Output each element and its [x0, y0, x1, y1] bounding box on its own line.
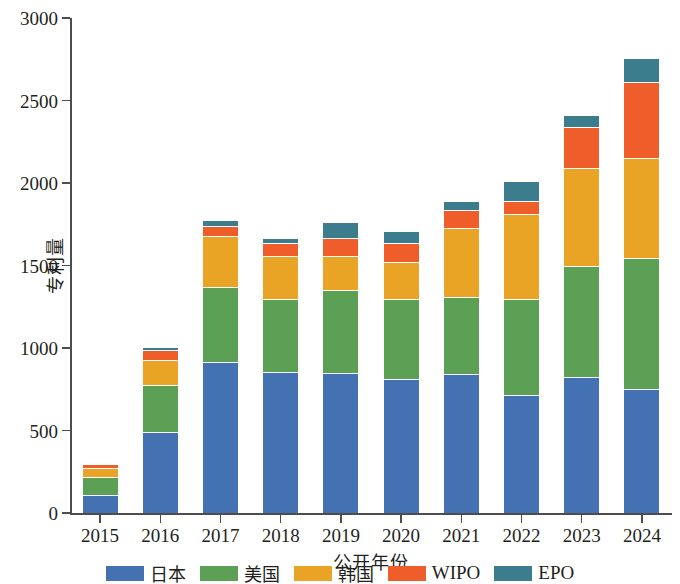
bar-segment[interactable]: [143, 385, 178, 432]
legend-label: WIPO: [432, 562, 481, 584]
bar-segment[interactable]: [83, 495, 118, 513]
legend-item[interactable]: 韩国: [294, 560, 374, 584]
legend-swatch-icon: [106, 566, 144, 581]
bar-group[interactable]: [444, 18, 479, 513]
bar-segment[interactable]: [444, 297, 479, 374]
bar-segment[interactable]: [624, 158, 659, 258]
bar-segment[interactable]: [323, 290, 358, 373]
bar-group[interactable]: [564, 18, 599, 513]
bar-segment[interactable]: [83, 468, 118, 476]
x-tick-mark: [220, 515, 222, 523]
bar-segment[interactable]: [444, 201, 479, 210]
bar-group[interactable]: [263, 18, 298, 513]
x-tick-label: 2024: [602, 525, 680, 547]
bar-segment[interactable]: [143, 347, 178, 350]
legend-item[interactable]: 美国: [200, 560, 280, 584]
bar-segment[interactable]: [624, 82, 659, 158]
bar-segment[interactable]: [263, 256, 298, 298]
stacked-bar-chart: 专利量 050010001500200025003000 20152016201…: [0, 0, 680, 584]
y-tick-label: 1000: [0, 339, 58, 358]
bar-segment[interactable]: [384, 262, 419, 298]
x-tick-mark: [581, 515, 583, 523]
bar-segment[interactable]: [263, 243, 298, 256]
bar-segment[interactable]: [323, 373, 358, 513]
legend-swatch-icon: [494, 566, 532, 581]
bar-group[interactable]: [384, 18, 419, 513]
x-tick-mark: [400, 515, 402, 523]
bar-segment[interactable]: [323, 222, 358, 239]
bar-segment[interactable]: [143, 432, 178, 513]
x-tick-mark: [160, 515, 162, 523]
y-tick-mark: [62, 347, 70, 349]
plot-area: [70, 18, 672, 513]
bar-group[interactable]: [143, 18, 178, 513]
bar-segment[interactable]: [384, 379, 419, 513]
bar-segment[interactable]: [203, 236, 238, 287]
bar-segment[interactable]: [323, 238, 358, 256]
chart-legend: 日本美国韩国WIPOEPO: [0, 560, 680, 584]
bar-segment[interactable]: [263, 238, 298, 243]
y-tick-mark: [62, 100, 70, 102]
bar-segment[interactable]: [504, 201, 539, 214]
y-tick-mark: [62, 430, 70, 432]
bar-group[interactable]: [504, 18, 539, 513]
bar-segment[interactable]: [564, 115, 599, 127]
bar-group[interactable]: [203, 18, 238, 513]
bar-segment[interactable]: [323, 256, 358, 290]
y-tick-mark: [62, 17, 70, 19]
bar-segment[interactable]: [564, 127, 599, 168]
bar-group[interactable]: [323, 18, 358, 513]
bar-segment[interactable]: [203, 287, 238, 362]
legend-swatch-icon: [200, 566, 238, 581]
legend-label: 韩国: [338, 560, 374, 584]
bar-segment[interactable]: [444, 374, 479, 513]
bar-segment[interactable]: [83, 477, 118, 495]
y-tick-label: 500: [0, 422, 58, 441]
bar-segment[interactable]: [83, 463, 118, 465]
bar-segment[interactable]: [504, 395, 539, 513]
bar-segment[interactable]: [203, 220, 238, 226]
x-tick-mark: [340, 515, 342, 523]
bar-segment[interactable]: [504, 181, 539, 201]
bar-segment[interactable]: [263, 372, 298, 513]
bar-group[interactable]: [624, 18, 659, 513]
bar-segment[interactable]: [624, 58, 659, 83]
bar-segment[interactable]: [504, 299, 539, 396]
bar-segment[interactable]: [504, 214, 539, 298]
y-tick-mark: [62, 265, 70, 267]
bar-segment[interactable]: [143, 350, 178, 360]
x-tick-mark: [99, 515, 101, 523]
y-tick-label: 3000: [0, 9, 58, 28]
bar-segment[interactable]: [564, 168, 599, 265]
bar-segment[interactable]: [564, 266, 599, 377]
bar-segment[interactable]: [203, 226, 238, 236]
legend-item[interactable]: EPO: [494, 562, 574, 584]
x-tick-mark: [461, 515, 463, 523]
bar-segment[interactable]: [384, 231, 419, 243]
bar-segment[interactable]: [203, 362, 238, 513]
y-tick-mark: [62, 182, 70, 184]
x-tick-mark: [280, 515, 282, 523]
x-tick-mark: [641, 515, 643, 523]
legend-swatch-icon: [294, 566, 332, 581]
bar-segment[interactable]: [384, 299, 419, 380]
bar-segment[interactable]: [83, 464, 118, 468]
bar-segment[interactable]: [624, 258, 659, 389]
bar-segment[interactable]: [444, 210, 479, 228]
legend-item[interactable]: WIPO: [388, 562, 481, 584]
bar-segment[interactable]: [384, 243, 419, 262]
y-tick-label: 1500: [0, 257, 58, 276]
legend-label: EPO: [538, 562, 574, 584]
legend-label: 美国: [244, 560, 280, 584]
bar-segment[interactable]: [444, 228, 479, 296]
bar-segment[interactable]: [263, 299, 298, 372]
bar-group[interactable]: [83, 18, 118, 513]
x-tick-mark: [521, 515, 523, 523]
bar-segment[interactable]: [624, 389, 659, 513]
bar-segment[interactable]: [143, 360, 178, 385]
y-tick-label: 2500: [0, 92, 58, 111]
y-tick-label: 0: [0, 504, 58, 523]
bar-segment[interactable]: [564, 377, 599, 513]
legend-item[interactable]: 日本: [106, 560, 186, 584]
y-tick-label: 2000: [0, 174, 58, 193]
